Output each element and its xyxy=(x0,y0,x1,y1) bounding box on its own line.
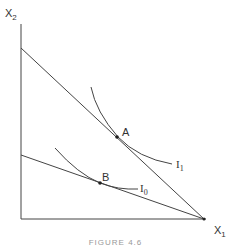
y-axis-label: X2 xyxy=(5,8,17,22)
indifference-curve-i0 xyxy=(55,148,138,189)
x-intercept-point xyxy=(203,218,206,221)
x-axis-label: X1 xyxy=(214,225,226,239)
figure-caption: FIGURE 4.6 xyxy=(0,238,231,245)
curve-i1-label: I1 xyxy=(176,159,184,173)
indifference-curve-i1 xyxy=(91,87,172,164)
point-a xyxy=(115,135,119,139)
budget-line-1 xyxy=(21,48,204,219)
point-a-label: A xyxy=(122,127,129,138)
curve-i0-label: I0 xyxy=(140,183,148,197)
indifference-diagram xyxy=(0,0,231,245)
point-b-label: B xyxy=(102,172,109,183)
